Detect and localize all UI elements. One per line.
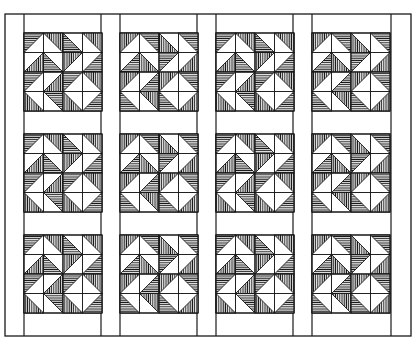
quilt-blocks: [24, 33, 390, 313]
quilt-block: [312, 235, 390, 313]
quilt-block: [120, 33, 198, 111]
quilt-block: [312, 134, 390, 212]
quilt-drawing: [0, 0, 418, 344]
quilt-block: [24, 235, 102, 313]
quilt-block: [216, 33, 294, 111]
quilt-block: [24, 33, 102, 111]
quilt-block: [216, 235, 294, 313]
quilt-block: [120, 235, 198, 313]
quilt-block: [216, 134, 294, 212]
quilt-block: [120, 134, 198, 212]
quilt-block: [24, 134, 102, 212]
quilt-block: [312, 33, 390, 111]
